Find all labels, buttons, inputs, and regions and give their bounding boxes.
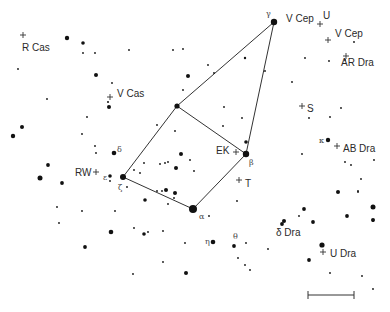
star — [182, 48, 184, 50]
star — [336, 190, 340, 194]
star — [373, 159, 375, 161]
greek-label: β — [249, 158, 254, 167]
star — [326, 138, 330, 142]
variable-star-label: EK — [216, 145, 230, 156]
star — [164, 162, 166, 164]
star — [107, 105, 111, 109]
scale-bar — [308, 291, 354, 299]
star — [11, 134, 15, 138]
greek-label: α — [199, 212, 205, 221]
star — [81, 41, 85, 45]
star — [143, 162, 145, 164]
greek-label: δ — [117, 145, 122, 154]
star — [344, 161, 346, 163]
greek-label: κ — [319, 136, 324, 145]
variable-star-label: U Dra — [330, 248, 357, 259]
star — [360, 178, 362, 180]
star — [264, 70, 266, 72]
variable-star-label: T — [245, 178, 251, 189]
variable-star-cross-icon — [93, 169, 99, 175]
star — [162, 230, 164, 232]
star-zeta — [120, 174, 126, 180]
star-alpha — [189, 205, 197, 213]
greek-letter-labels: γδεζαβκηθ — [103, 9, 324, 246]
star — [56, 206, 58, 208]
star — [237, 257, 239, 259]
constellation-line — [177, 106, 246, 154]
constellation-lines — [123, 22, 274, 209]
greek-label: γ — [266, 9, 271, 18]
star — [109, 230, 114, 235]
star — [345, 214, 349, 218]
star — [232, 244, 236, 248]
variable-star-cross-icon — [325, 37, 331, 43]
star — [328, 60, 330, 62]
variable-star-cross-icon — [107, 94, 113, 100]
star — [107, 101, 109, 103]
star-iota — [174, 103, 179, 108]
star — [182, 89, 184, 91]
star-field: R CasV CasV CepUV CepAR DraSAB DraEKTRWδ… — [0, 0, 390, 312]
star — [156, 190, 158, 192]
star — [245, 242, 247, 244]
greek-label: ζ — [118, 183, 123, 192]
star — [94, 52, 96, 54]
star — [173, 197, 175, 199]
star — [81, 210, 83, 212]
star — [147, 231, 149, 233]
star — [46, 98, 48, 100]
star — [167, 161, 169, 163]
star — [298, 215, 300, 217]
star — [371, 205, 376, 210]
variable-star-markers: R CasV CasV CepUV CepAR DraSAB DraEKTRWδ… — [20, 10, 376, 259]
star-beta — [243, 151, 249, 157]
star — [319, 242, 324, 247]
star — [82, 52, 84, 54]
star — [249, 269, 251, 271]
star — [357, 191, 359, 193]
star — [143, 198, 147, 202]
variable-star-label: AB Dra — [343, 143, 376, 154]
star — [94, 73, 98, 77]
variable-star-label: V Cep — [335, 28, 363, 39]
star — [353, 41, 355, 43]
star — [142, 232, 146, 236]
star — [164, 188, 168, 192]
star — [179, 152, 183, 156]
star — [111, 82, 113, 84]
star — [189, 159, 191, 161]
variable-star-cross-icon — [236, 177, 242, 183]
variable-star-label: δ Dra — [276, 227, 301, 238]
star — [94, 145, 96, 147]
star — [108, 174, 112, 178]
star — [162, 261, 164, 263]
variable-star-cross-icon — [299, 103, 305, 109]
star — [38, 176, 43, 181]
star — [139, 172, 141, 174]
constellation-line — [123, 106, 177, 177]
star — [304, 57, 306, 59]
star — [350, 164, 352, 166]
star — [174, 130, 176, 132]
variable-star-label: U — [323, 10, 330, 21]
variable-star-label: AR Dra — [341, 57, 374, 68]
star — [211, 240, 216, 245]
greek-label: θ — [233, 232, 238, 241]
star — [208, 215, 210, 217]
star — [213, 72, 215, 74]
star-gamma — [271, 19, 277, 25]
star — [173, 191, 177, 195]
star — [184, 242, 186, 244]
star — [236, 200, 238, 202]
star — [65, 36, 69, 40]
star — [329, 272, 331, 274]
star — [133, 169, 135, 171]
star — [372, 220, 374, 222]
star — [81, 133, 83, 135]
star — [167, 203, 169, 205]
variable-star-cross-icon — [317, 21, 323, 27]
constellation-line — [177, 22, 274, 106]
star — [20, 125, 24, 129]
star — [161, 190, 163, 192]
variable-star-cross-icon — [334, 143, 340, 149]
